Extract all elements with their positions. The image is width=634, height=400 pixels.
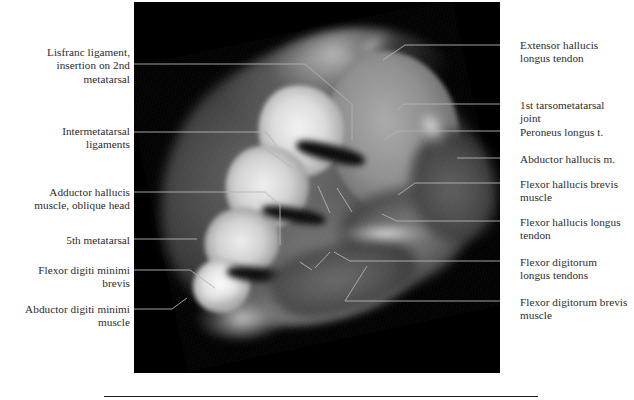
label-flexor-digitorum-brevis-muscle: Flexor digitorum brevis muscle <box>520 296 634 323</box>
label-flexor-hallucis-brevis-muscle: Flexor hallucis brevis muscle <box>520 178 632 205</box>
label-lisfranc-ligament: Lisfranc ligament, insertion on 2nd meta… <box>18 46 130 86</box>
label-intermetatarsal-ligaments: Intermetatarsal ligaments <box>31 125 130 152</box>
label-peroneus-longus-tendon: Peroneus longus t. <box>520 126 632 139</box>
bottom-divider-rule <box>104 396 538 397</box>
foot-cross-section <box>134 2 500 372</box>
mri-image-plate <box>134 2 500 373</box>
label-fifth-metatarsal: 5th metatarsal <box>42 234 130 247</box>
label-flexor-hallucis-longus-tendon: Flexor hallucis longus tendon <box>520 216 632 243</box>
figure-page: Lisfranc ligament, insertion on 2nd meta… <box>0 0 634 400</box>
caption-strip <box>134 373 500 396</box>
flexor-digitorum-longus-tendons <box>340 223 432 243</box>
label-flexor-digitorum-longus-tendons: Flexor digitorum longus tendons <box>520 256 632 283</box>
label-abductor-digiti-minimi-muscle: Abductor digiti minimi muscle <box>0 303 130 330</box>
label-first-tarsometatarsal-joint: 1st tarsometatarsal joint <box>520 99 632 126</box>
label-abductor-hallucis-muscle: Abductor hallucis m. <box>520 153 632 166</box>
label-flexor-digiti-minimi-brevis: Flexor digiti minimi brevis <box>14 264 130 291</box>
label-adductor-hallucis-oblique-head: Adductor hallucis muscle, oblique head <box>12 186 130 213</box>
label-extensor-hallucis-longus-tendon: Extensor hallucis longus tendon <box>520 39 632 66</box>
